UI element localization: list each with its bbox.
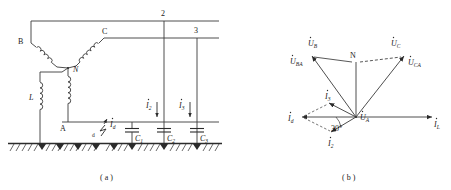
label-phasor-neutral: N: [350, 51, 356, 60]
dot-uc: [393, 37, 394, 38]
phasor-uca: [360, 57, 401, 62]
label-cap-c1: C1: [135, 134, 143, 144]
caption-a: ( a ): [100, 173, 113, 182]
label-line-3: 3: [194, 26, 198, 35]
label-neutral-n: N: [72, 65, 79, 74]
label-phasor-uca: UCA: [408, 58, 421, 68]
dot-ua: [362, 111, 363, 112]
label-phasor-il: IL: [433, 120, 440, 130]
dot-phasor-i2: [330, 137, 331, 138]
label-node-c: C: [102, 27, 107, 36]
label-phasor-i2: I2: [327, 139, 334, 149]
label-phasor-id: Id: [287, 114, 294, 124]
arc-suppression-coil: [40, 82, 43, 143]
dot-i3: [181, 99, 182, 100]
label-phasor-ub: UB: [308, 39, 318, 49]
label-cap-c2: C2: [167, 134, 175, 144]
label-node-b: B: [18, 37, 23, 46]
winding-c: [76, 38, 104, 66]
earth-spikes: [38, 144, 201, 150]
label-current-id: Id: [109, 120, 116, 130]
dot-phasor-il: [436, 118, 437, 119]
fault-current-arrow: [104, 119, 107, 124]
dot-uca: [410, 56, 411, 57]
neutral-tap: [62, 68, 68, 72]
label-inductor-l: L: [28, 93, 34, 102]
label-line-2: 2: [161, 9, 165, 18]
caption-b: ( b ): [342, 173, 356, 182]
label-phasor-ua: UA: [360, 113, 370, 123]
dot-ub: [310, 37, 311, 38]
fault-arc-symbol: [100, 125, 106, 136]
winding-a: [68, 68, 71, 122]
phasor-uba: [314, 57, 352, 62]
label-fault-point-d: d: [92, 132, 95, 138]
label-node-a: A: [60, 124, 66, 133]
diagram-svg: B C A N L 2 3 d Id I2 I3 C1 C2 C3: [0, 0, 451, 190]
dot-uba: [292, 55, 293, 56]
label-phasor-uc: UC: [391, 39, 401, 49]
dot-phasor-id: [290, 112, 291, 113]
label-current-i2: I2: [145, 101, 152, 111]
winding-b: [31, 43, 57, 67]
label-phasor-i3: I3: [324, 92, 331, 102]
phasor-i3: [329, 103, 356, 117]
label-angle-30: 30°: [331, 124, 342, 133]
construction-line-upper: [304, 104, 328, 116]
dot-phasor-i3: [327, 90, 328, 91]
phasor-ub: [312, 56, 356, 117]
figure-container: B C A N L 2 3 d Id I2 I3 C1 C2 C3: [0, 0, 451, 190]
label-phasor-uba: UBA: [290, 57, 303, 67]
label-cap-c3: C3: [200, 134, 208, 144]
circuit-diagram: B C A N L 2 3 d Id I2 I3 C1 C2 C3: [8, 9, 222, 151]
phasor-uc: [356, 56, 404, 117]
construction-line-lower: [304, 118, 330, 131]
lead-to-inductor: [40, 72, 62, 82]
dot-i2: [148, 99, 149, 100]
dot-id: [112, 118, 113, 119]
phasor-diagram: N UB UC UBA UCA UA Id I3 I2 IL 30°: [287, 37, 440, 149]
label-current-i3: I3: [178, 101, 185, 111]
